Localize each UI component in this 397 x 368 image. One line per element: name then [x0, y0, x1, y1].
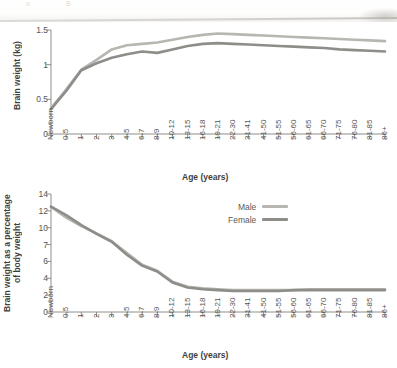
legend-label: Female — [228, 215, 256, 225]
y-axis-tick-labels-top: 00.511.5 — [14, 22, 48, 134]
x-axis-tick-label: 13-15 — [184, 120, 192, 140]
x-axis-title-bottom: Age (years) — [182, 350, 228, 360]
x-axis-tick-label: 31-41 — [244, 120, 252, 140]
x-axis-tick-label: 4-5 — [123, 306, 131, 318]
legend-color-swatch — [262, 218, 288, 221]
x-axis-tick-label: 22-30 — [229, 120, 237, 140]
x-axis-tick-label: 61-65 — [305, 120, 313, 140]
x-axis-tick-label: 86+ — [381, 304, 389, 318]
x-axis-tick-label: 6-7 — [138, 128, 146, 140]
x-axis-tick-labels-bottom: Newborn0.51234-56-78-910-1213-1516-1819-… — [50, 318, 386, 368]
scan-ghost-text-right: B — [66, 0, 71, 7]
plot-area-bottom — [50, 194, 386, 312]
x-axis-tick-label: 66-70 — [320, 298, 328, 318]
x-axis-tick-label: 16-18 — [199, 298, 207, 318]
x-axis-tick-label: 16-18 — [199, 120, 207, 140]
x-axis-tick-label: 51-55 — [275, 120, 283, 140]
x-axis-tick-label: 8-9 — [153, 128, 161, 140]
scan-artifact-smudge — [359, 8, 397, 22]
x-axis-tick-label: 19-21 — [214, 298, 222, 318]
x-axis-tick-label: 86+ — [381, 126, 389, 140]
x-axis-tick-label: 76-80 — [351, 120, 359, 140]
x-axis-tick-label: 2 — [93, 136, 101, 140]
x-axis-tick-label: 19-21 — [214, 120, 222, 140]
chart-panel-brain-weight-kg: Brain weight (kg) 00.511.5 Newborn0.5123… — [0, 22, 397, 182]
x-axis-tick-label: 0.5 — [62, 129, 70, 140]
x-axis-tick-label: 2 — [93, 314, 101, 318]
chart-legend: MaleFemale — [228, 200, 288, 226]
x-axis-tick-label: 1 — [77, 136, 85, 140]
legend-item: Male — [228, 200, 288, 213]
plot-area-top — [50, 30, 386, 134]
x-axis-tick-label: 41-50 — [260, 298, 268, 318]
x-axis-tick-label: 56-60 — [290, 298, 298, 318]
x-axis-tick-label: 41-50 — [260, 120, 268, 140]
x-axis-tick-label: 0.5 — [62, 307, 70, 318]
legend-item: Female — [228, 213, 288, 226]
line-chart-brain-weight-percent — [50, 194, 386, 312]
legend-color-swatch — [262, 205, 288, 208]
x-axis-tick-label: 56-60 — [290, 120, 298, 140]
x-axis-tick-label: 10-12 — [168, 298, 176, 318]
x-axis-tick-label: 81-85 — [366, 298, 374, 318]
line-chart-brain-weight-kg — [50, 30, 386, 134]
y-axis-tick-labels-bottom: 02467101214 — [14, 186, 48, 312]
x-axis-tick-label: 31-41 — [244, 298, 252, 318]
scan-ghost-text-left: o — [26, 0, 30, 7]
x-axis-tick-label: 66-70 — [320, 120, 328, 140]
x-axis-tick-label: 81-85 — [366, 120, 374, 140]
x-axis-tick-label: 71-75 — [335, 120, 343, 140]
x-axis-tick-label: Newborn — [47, 286, 55, 318]
x-axis-tick-label: 6-7 — [138, 306, 146, 318]
x-axis-tick-label: 76-80 — [351, 298, 359, 318]
x-axis-tick-label: 3 — [108, 314, 116, 318]
legend-label: Male — [238, 202, 256, 212]
x-axis-tick-label: 71-75 — [335, 298, 343, 318]
x-axis-tick-label: 61-65 — [305, 298, 313, 318]
x-axis-tick-label: 8-9 — [153, 306, 161, 318]
x-axis-tick-label: 22-30 — [229, 298, 237, 318]
x-axis-tick-label: 3 — [108, 136, 116, 140]
x-axis-title-top: Age (years) — [182, 172, 228, 182]
x-axis-tick-label: 4-5 — [123, 128, 131, 140]
x-axis-tick-label: Newborn — [47, 108, 55, 140]
x-axis-tick-label: 51-55 — [275, 298, 283, 318]
x-axis-tick-label: 1 — [77, 314, 85, 318]
x-axis-tick-label: 10-12 — [168, 120, 176, 140]
chart-panel-brain-weight-percent: Brain weight as a percentage of body wei… — [0, 186, 397, 368]
x-axis-tick-label: 13-15 — [184, 298, 192, 318]
